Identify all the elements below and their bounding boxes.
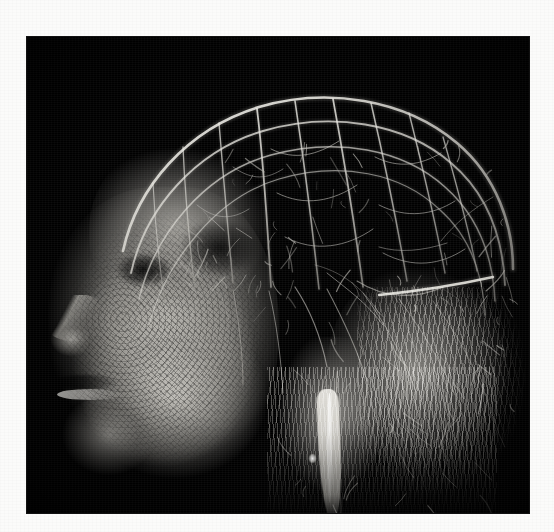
vessel-glow-layer: [123, 98, 513, 325]
vessel-twig: [360, 345, 364, 355]
vessel-twig: [510, 404, 514, 411]
vessel-twig: [434, 268, 440, 285]
vessel-twig: [286, 321, 289, 335]
vessel-twig: [355, 417, 362, 433]
vessel-twig: [443, 473, 457, 487]
vessel-twig: [303, 486, 306, 496]
vessel-twig: [336, 372, 337, 392]
vessel-twig: [232, 179, 234, 185]
vessel-twig: [359, 199, 368, 212]
vessel-twig: [257, 281, 261, 293]
vessel-twig: [480, 495, 492, 513]
vessel-twig: [387, 427, 392, 449]
vessel-twig: [337, 270, 351, 291]
vessel-twig: [215, 291, 226, 300]
vessel-branch: [379, 243, 447, 250]
vessel-twig: [287, 246, 293, 272]
vessel-twig: [213, 256, 217, 263]
vessel-twig: [288, 297, 296, 308]
vessel-twig: [341, 202, 346, 208]
vessel-branch: [363, 293, 415, 389]
vessel-branch: [433, 301, 485, 395]
vessel-twig: [510, 299, 518, 304]
vessel-twig: [404, 426, 407, 441]
vessel-twig: [322, 385, 328, 400]
vessel-twig: [353, 154, 362, 167]
vessel-twig: [402, 457, 413, 478]
vessel-twig: [195, 249, 208, 277]
vessel-twig: [286, 281, 293, 299]
vessel-twig: [441, 298, 450, 305]
specimen-layer: [27, 37, 529, 513]
vessel-twig: [416, 447, 422, 454]
vessel-twig: [501, 219, 503, 226]
vessel-twig: [401, 315, 409, 336]
vessel-twig: [295, 479, 301, 485]
vessel-twig: [225, 149, 233, 162]
vessel-twig: [333, 505, 346, 513]
vessel-branch: [383, 249, 465, 263]
vessel-twig: [360, 333, 363, 344]
vessel-twig: [483, 341, 500, 355]
vessel-twig: [446, 396, 454, 421]
vessel-twig: [199, 340, 201, 351]
vessel-twig: [371, 352, 374, 373]
vessel-twig: [273, 222, 277, 230]
vessel-twig: [386, 212, 393, 221]
figure-caption: [27, 516, 529, 530]
vessel-twig: [414, 305, 416, 311]
vessel-twig-layer: [145, 141, 517, 513]
vessel-branch: [233, 289, 243, 385]
vessel-twig: [345, 383, 350, 393]
vessel-twig: [459, 306, 463, 312]
vessel-twig: [197, 272, 199, 279]
vessel-branch: [269, 291, 283, 393]
vessel-twig: [294, 370, 308, 385]
vessel-twig: [273, 281, 281, 295]
vessel-twig: [408, 339, 424, 357]
vessel-twig: [288, 237, 295, 243]
vessel-twig: [441, 357, 449, 371]
vessel-twig: [234, 275, 246, 291]
vessel-twig: [206, 262, 207, 271]
vessel-twig: [278, 437, 291, 455]
vessel-twig: [451, 413, 463, 427]
vessel-twig: [338, 486, 341, 513]
vessel-twig: [347, 296, 358, 315]
figure-root: [0, 0, 554, 532]
vessel-twig: [208, 286, 214, 293]
vessel-branch: [327, 289, 367, 381]
vessel-twig: [213, 277, 225, 290]
vessel-twig: [331, 340, 343, 362]
vessel-twig: [177, 237, 182, 252]
volume-rendering-panel[interactable]: [27, 37, 529, 513]
vessel-twig: [470, 201, 477, 207]
vessel-twig: [331, 190, 333, 208]
vessel-twig: [475, 463, 491, 480]
vessel-twig: [494, 418, 505, 447]
vessel-branch: [285, 229, 373, 246]
vessel-branch-layer: [197, 141, 493, 395]
vessel-twig: [375, 305, 382, 315]
vessel-branch: [295, 287, 327, 367]
vessel-branch: [277, 185, 357, 201]
vessel-twig: [188, 299, 199, 325]
vessel-twig: [248, 275, 255, 293]
vessel-twig: [184, 279, 193, 285]
vessel-twig: [502, 345, 504, 357]
vessel-twig: [306, 144, 307, 156]
vessel-twig: [256, 286, 258, 297]
vessel-network: [27, 37, 529, 513]
vessel-twig: [410, 429, 432, 446]
vessel-twig: [428, 506, 445, 513]
vessel-branch: [197, 205, 249, 217]
vessel-twig: [395, 494, 405, 506]
vessel-arc-layer: [123, 98, 513, 325]
vessel-twig: [222, 298, 229, 319]
vessel-twig: [497, 317, 499, 324]
vessel-twig: [461, 319, 464, 330]
vessel-twig: [453, 383, 464, 399]
vessel-twig: [209, 217, 224, 231]
vessel-twig: [236, 228, 252, 238]
vessel-twig: [254, 307, 266, 321]
